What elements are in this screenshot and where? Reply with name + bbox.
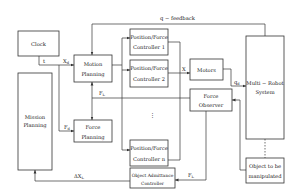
object-admittance-label-2: Controller <box>141 181 165 186</box>
motion-to-ctrl2-arrow <box>122 65 130 70</box>
multi-robot-label-1: Multi − Robot <box>246 80 284 86</box>
multi-robot-system-block: Multi − Robot System <box>246 36 285 139</box>
controller-n-label-2: Controller n <box>133 156 166 162</box>
controller-1-label-2: Controller 1 <box>133 44 165 50</box>
motion-planning-label-1: Motion <box>84 61 103 67</box>
force-observer-label-1: Force <box>204 93 219 99</box>
q-feedback-arrow <box>92 24 265 55</box>
controller-n-label-1: Position/Force <box>130 145 168 151</box>
controller-1-label-1: Position/Force <box>130 34 168 40</box>
force-observer-block: Force Observer <box>190 89 232 111</box>
force-planning-label-1: Force <box>86 124 101 130</box>
signal-q-feedback: q − feedback <box>160 15 196 22</box>
motion-planning-block: Motion Planning <box>74 55 112 82</box>
controller-n-block: Position/Force Controller n <box>130 140 168 166</box>
signal-t: t <box>43 58 46 64</box>
object-label-2: manipulated <box>249 173 283 180</box>
clock-block: Clock <box>18 31 59 56</box>
object-admittance-label-1: Object Admittance <box>132 173 174 178</box>
object-block: Object to be manipulated <box>246 158 284 183</box>
signal-fd: Fd <box>64 124 71 131</box>
motors-block: Motors <box>190 59 223 80</box>
motion-planning-label-2: Planning <box>81 71 105 78</box>
signal-x: X <box>182 66 186 72</box>
mission-planning-label-2: Planning <box>23 122 47 129</box>
object-admittance-block: Object Admittance Controller <box>130 168 175 188</box>
controller-2-label-2: Controller 2 <box>133 76 165 82</box>
mission-to-force-arrow <box>59 65 74 131</box>
signal-xd: Xd <box>63 58 70 65</box>
controller-2-label-1: Position/Force <box>130 65 168 71</box>
force-planning-block: Force Planning <box>74 120 112 142</box>
signal-fl-bottom: FL <box>188 172 195 179</box>
signal-fl-top: FL <box>99 90 106 97</box>
control-diagram: Clock Mission Planning Motion Planning F… <box>0 0 300 196</box>
motion-to-ctrl1-arrow <box>112 38 130 65</box>
multi-robot-label-2: System <box>255 89 274 96</box>
controllers-ellipsis: ⋮ <box>150 112 155 118</box>
motion-to-ctrln-arrow <box>122 70 130 150</box>
controller-2-block: Position/Force Controller 2 <box>130 60 168 87</box>
object-label-1: Object to be <box>249 163 281 170</box>
motors-label: Motors <box>197 67 216 73</box>
mission-planning-block: Mission Planning <box>18 73 52 170</box>
force-observer-label-2: Observer <box>199 102 224 108</box>
object-to-observer-arrow <box>232 100 246 170</box>
clock-label: Clock <box>31 41 47 47</box>
signal-qd: qd <box>234 79 240 86</box>
mission-planning-label-1: Mission <box>25 114 46 120</box>
force-planning-label-2: Planning <box>81 134 105 141</box>
controller-bus <box>168 42 180 160</box>
signal-delta-xl: ΔXL <box>74 173 84 180</box>
controller-1-block: Position/Force Controller 1 <box>130 29 168 55</box>
